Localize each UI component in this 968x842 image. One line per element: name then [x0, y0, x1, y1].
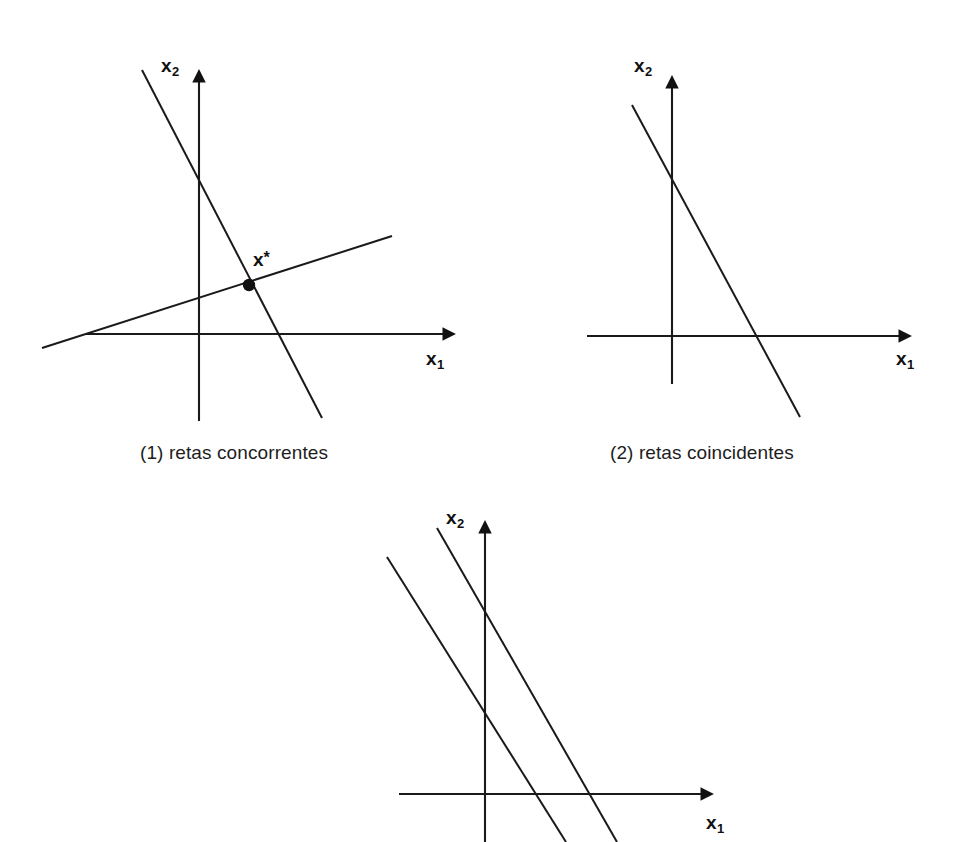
panel-1-line-shallow — [42, 236, 392, 348]
panel-3-x-axis-label: x1 — [706, 812, 724, 836]
panel-3-line-parallel-left — [387, 557, 566, 842]
panel-2-y-axis-label: x2 — [634, 55, 652, 79]
panel-1-graph — [42, 70, 445, 421]
panel-1-x-axis-label: x1 — [426, 348, 444, 372]
panel-3-y-axis-label: x2 — [446, 507, 464, 531]
panel-2-x-axis-label: x1 — [896, 348, 914, 372]
panel-3-graph — [387, 528, 703, 842]
diagram-canvas — [0, 0, 968, 842]
figure-root: x2 x1 x* (1) retas concorrentes x2 x1 (2… — [0, 0, 968, 842]
panel-2-graph — [587, 86, 901, 417]
panel-1-y-axis-label: x2 — [161, 55, 179, 79]
panel-2-caption: (2) retas coincidentes — [610, 442, 794, 464]
panel-1-line-steep — [142, 70, 322, 418]
panel-2-line-coincident — [632, 105, 800, 417]
panel-1-caption: (1) retas concorrentes — [140, 442, 328, 464]
panel-1-solution-point-label: x* — [253, 249, 270, 271]
panel-1-solution-point — [243, 279, 255, 291]
